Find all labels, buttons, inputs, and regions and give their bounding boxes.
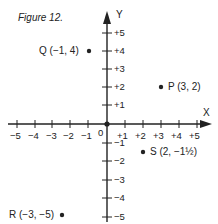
y-tick-label: +1 (114, 100, 125, 110)
x-tick-label: −3 (46, 131, 57, 141)
x-tick-label: +5 (189, 131, 200, 141)
x-tick-label: −5 (10, 131, 21, 141)
y-tick-label: −1 (114, 138, 125, 148)
x-tick-label: −1 (81, 131, 92, 141)
y-axis-label: Y (116, 10, 123, 20)
x-axis-arrow-icon (200, 120, 212, 128)
point-s-label: S (2, −1½) (150, 147, 197, 157)
origin-dot (104, 121, 109, 126)
y-tick-label: +5 (114, 28, 125, 38)
y-tick-label: +2 (114, 82, 125, 92)
point-p-label: P (3, 2) (168, 82, 201, 92)
x-axis-label: X (203, 108, 210, 118)
coordinate-plane (0, 0, 218, 224)
origin-label: 0 (98, 128, 103, 138)
point-r-label: R (−3, −5) (9, 210, 54, 220)
y-tick-label: −4 (114, 193, 125, 203)
y-tick-label: −3 (114, 175, 125, 185)
point-s-dot (141, 150, 145, 154)
point-p-dot (159, 85, 163, 89)
point-q-dot (87, 49, 91, 53)
x-tick-label: +4 (171, 131, 182, 141)
figure-title: Figure 12. (18, 13, 63, 23)
x-tick-label: −2 (63, 131, 74, 141)
x-tick-label: +2 (135, 131, 146, 141)
y-tick-label: −2 (114, 156, 125, 166)
point-r-dot (60, 213, 64, 217)
x-tick-label: −4 (28, 131, 39, 141)
y-axis-arrow-icon (103, 11, 111, 24)
y-tick-label: +4 (114, 46, 125, 56)
point-q-label: Q (−1, 4) (39, 46, 79, 56)
y-tick-label: +3 (114, 64, 125, 74)
x-tick-label: +3 (153, 131, 164, 141)
y-tick-label: −5 (114, 212, 125, 222)
